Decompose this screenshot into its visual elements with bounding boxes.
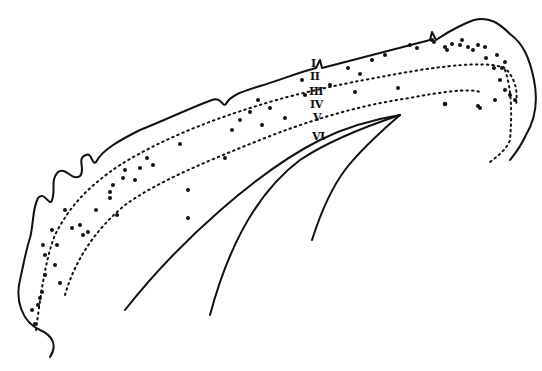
layer-boundary-III-IV [65, 90, 480, 295]
cortex-drawing [0, 0, 542, 371]
layer-label-III: III [309, 85, 323, 98]
cortex-diagram: I II III IV V VI [0, 0, 542, 371]
layer-label-I: I [311, 57, 316, 70]
layer-label-II: II [310, 70, 319, 83]
pial-surface-outline [18, 19, 535, 357]
layer-boundary-deep [490, 70, 511, 162]
layer-label-IV: IV [310, 98, 323, 111]
white-matter-line-2 [210, 115, 400, 315]
white-matter-line-1 [125, 115, 400, 310]
layer-label-V: V [313, 111, 321, 124]
white-matter-line-3 [312, 115, 400, 240]
layer-label-VI: VI [312, 130, 325, 143]
